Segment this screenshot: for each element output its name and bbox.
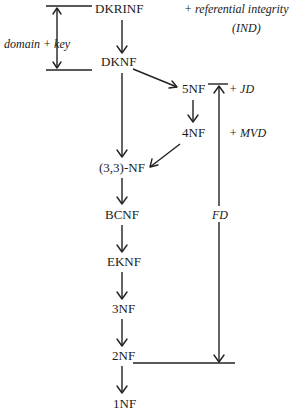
referential-integrity-label: + referential integrity <box>184 2 289 16</box>
node-4nf: 4NF <box>182 125 205 140</box>
jd-label: + JD <box>229 82 254 96</box>
fd-label: FD <box>211 208 228 222</box>
normal-forms-diagram: domain + key DKRINF + referential integr… <box>0 0 297 414</box>
node-dknf: DKNF <box>101 54 136 69</box>
node-3nf: 3NF <box>112 301 135 316</box>
mvd-label: + MVD <box>229 126 266 140</box>
node-bcnf: BCNF <box>105 207 139 222</box>
ind-label: (IND) <box>232 21 261 35</box>
node-3-3-nf: (3,3)-NF <box>99 160 145 175</box>
node-eknf: EKNF <box>107 254 141 269</box>
domain-key-label: domain + key <box>4 37 71 51</box>
node-5nf: 5NF <box>182 81 205 96</box>
node-dkrinf: DKRINF <box>95 1 143 16</box>
node-1nf: 1NF <box>113 396 136 411</box>
node-2nf: 2NF <box>112 348 135 363</box>
